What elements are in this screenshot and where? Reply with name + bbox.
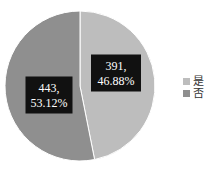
data-label-percent: 46.88% — [98, 74, 135, 88]
data-label-value: 391, — [106, 59, 127, 73]
legend: 是否 — [183, 75, 204, 100]
legend-swatch — [183, 90, 190, 97]
data-label-percent: 53.12% — [31, 96, 68, 110]
legend-swatch — [183, 78, 190, 85]
pie-chart: 391,46.88%443,53.12% 是否 — [0, 0, 211, 174]
legend-label: 否 — [193, 87, 204, 100]
data-label-value: 443, — [39, 81, 60, 95]
